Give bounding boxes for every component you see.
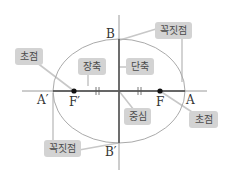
leader-vertex-top-b <box>120 29 156 40</box>
label-vertex-top: 꼭짓점 <box>155 22 192 39</box>
point-a: A <box>186 94 195 106</box>
point-f-prime: F′ <box>69 96 80 108</box>
focus-left-dot <box>71 88 76 93</box>
label-major-axis: 장축 <box>78 58 106 75</box>
focus-right-dot <box>157 88 162 93</box>
label-vertex-bottom: 꼭짓점 <box>44 140 81 157</box>
label-center: 중심 <box>124 108 151 125</box>
label-minor-axis: 단축 <box>126 58 154 75</box>
point-b-prime: B′ <box>105 146 117 158</box>
point-b: B <box>106 28 115 40</box>
ellipse-diagram <box>0 0 234 174</box>
label-focus-right: 초점 <box>189 111 218 128</box>
leader-lines <box>36 29 195 150</box>
point-a-prime: A′ <box>37 94 48 106</box>
point-f: F <box>156 96 164 108</box>
label-focus-left: 초점 <box>15 48 43 65</box>
